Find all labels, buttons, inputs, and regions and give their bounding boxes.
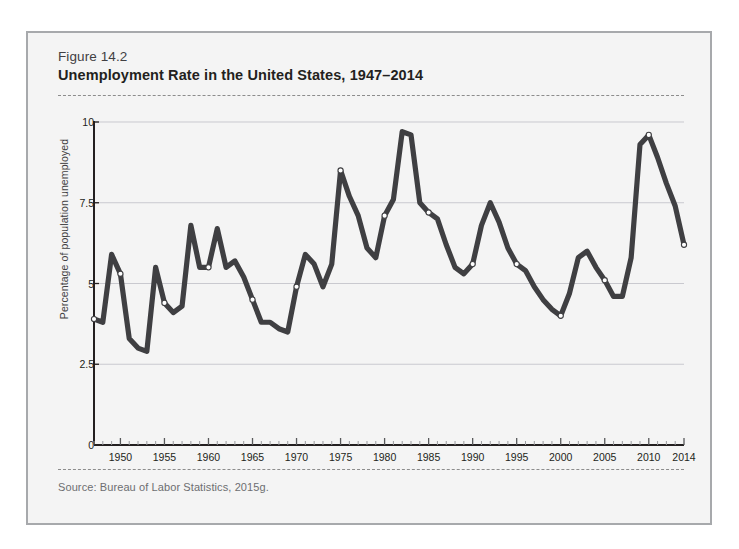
data-point-marker xyxy=(514,262,519,267)
line-chart xyxy=(28,33,714,527)
data-point-marker xyxy=(91,316,96,321)
data-point-marker xyxy=(206,265,211,270)
data-line xyxy=(94,132,684,352)
data-point-marker xyxy=(646,132,651,137)
data-point-marker xyxy=(382,213,387,218)
data-point-marker xyxy=(118,271,123,276)
data-point-marker xyxy=(162,300,167,305)
data-point-marker xyxy=(681,242,686,247)
data-point-marker xyxy=(470,262,475,267)
figure-panel: Figure 14.2 Unemployment Rate in the Uni… xyxy=(26,31,712,525)
data-point-marker xyxy=(558,313,563,318)
data-point-marker xyxy=(294,284,299,289)
data-point-marker xyxy=(602,278,607,283)
data-point-marker xyxy=(338,168,343,173)
plot-area: Percentage of population unemployed 02.5… xyxy=(28,33,714,527)
data-point-marker xyxy=(426,210,431,215)
data-point-marker xyxy=(250,297,255,302)
